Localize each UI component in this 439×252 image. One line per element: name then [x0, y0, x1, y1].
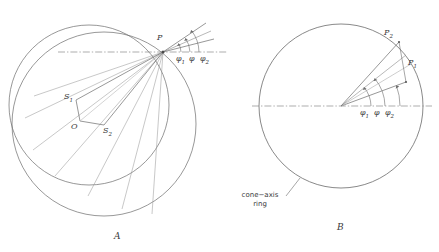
panel-b-ray-phi2: [341, 82, 406, 106]
panel-a-label-s1-sub: 1: [69, 97, 73, 103]
panel-b-caption: B: [337, 222, 344, 232]
panel-b-label-phi: φ: [374, 108, 380, 117]
panel-b-point-p2-marker: [398, 41, 400, 43]
panel-a-label-s1: S1: [64, 92, 73, 103]
panel-a-angle-rays: [163, 23, 214, 52]
panel-b-group: [252, 24, 432, 196]
panel-a-chord-fan: [25, 52, 163, 214]
panel-b-ring-note-line2: ring: [231, 200, 289, 209]
panel-a-inner-circle: [9, 25, 169, 185]
panel-a-source-polygon: [76, 52, 163, 125]
panel-b-ray-phi-mid: [341, 55, 406, 106]
panel-b-label-phi2: φ2: [385, 108, 394, 119]
panel-b-label-p1-sub: 1: [413, 63, 417, 69]
panel-a-label-s2-sub: 2: [108, 131, 112, 137]
panel-b-sector-edge: [399, 42, 406, 82]
panel-b-label-phi1-sub: 1: [366, 113, 370, 119]
panel-a-label-s2: S2: [103, 126, 112, 137]
panel-b-label-phi2-sub: 2: [391, 113, 395, 119]
panel-b-ray-phi: [341, 64, 411, 106]
panel-a-caption: A: [114, 231, 121, 241]
panel-b-cone-axis-ring-note: cone−axis ring: [231, 191, 289, 208]
panel-a-group: [9, 23, 228, 216]
panel-a-label-phi2: φ2: [200, 54, 209, 65]
figure-root: P S1 O S2 φ1 φ φ2 P2 P1 φ1 φ φ2 cone−axi…: [0, 0, 439, 252]
panel-b-label-p1: P1: [408, 58, 417, 69]
panel-a-label-phi1: φ1: [176, 54, 185, 65]
panel-a-label-o: O: [71, 122, 78, 131]
panel-b-label-p2: P2: [384, 28, 393, 39]
panel-a-arrow-heads: [177, 30, 194, 46]
panel-b-point-p1-marker: [405, 81, 407, 83]
panel-a-label-phi: φ: [189, 54, 195, 63]
panel-a-label-phi2-sub: 2: [206, 59, 210, 65]
figure-canvas: [0, 0, 439, 252]
panel-a-point-p-marker: [162, 51, 165, 54]
panel-b-angle-arcs: [364, 78, 400, 106]
panel-a-label-phi1-sub: 1: [182, 59, 186, 65]
panel-b-label-phi1: φ1: [360, 108, 369, 119]
panel-a-outer-circle: [12, 32, 196, 216]
panel-b-ray-phi1: [341, 42, 399, 106]
panel-a-ray-phi2: [163, 23, 206, 52]
panel-b-label-p2-sub: 2: [389, 33, 393, 39]
panel-b-ring-note-line1: cone−axis: [231, 191, 289, 200]
panel-a-label-p: P: [157, 33, 162, 42]
